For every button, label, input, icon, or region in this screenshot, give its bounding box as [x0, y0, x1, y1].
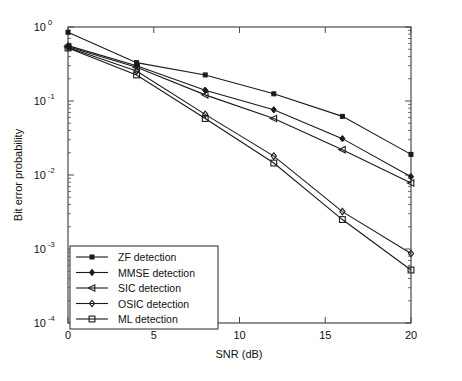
legend-label: OSIC detection [118, 298, 189, 310]
legend-label: SIC detection [118, 282, 181, 294]
legend-label: ZF detection [118, 251, 177, 263]
data-point-marker [409, 152, 413, 156]
data-point-marker [272, 92, 276, 96]
svg-text:0: 0 [48, 18, 52, 27]
y-tick-label: 10-2 [34, 166, 55, 181]
series-line [68, 32, 411, 154]
svg-text:-2: -2 [48, 166, 55, 175]
bit-error-rate-chart: 0510152010010-110-210-310-4 SNR (dB) Bit… [0, 0, 462, 381]
series-line [68, 48, 411, 270]
x-tick-label: 10 [233, 329, 245, 341]
data-point-marker [203, 73, 207, 77]
chart-legend: ZF detectionMMSE detectionSIC detectionO… [70, 246, 218, 329]
y-tick-label: 10-1 [34, 92, 55, 107]
figure-container: 0510152010010-110-210-310-4 SNR (dB) Bit… [0, 0, 462, 381]
data-point-marker [66, 30, 70, 34]
svg-text:-4: -4 [48, 314, 55, 323]
series-zf-detection [66, 30, 413, 156]
svg-text:-1: -1 [48, 92, 55, 101]
x-tick-label: 20 [405, 329, 417, 341]
data-point-marker [340, 135, 345, 141]
x-axis-title: SNR (dB) [215, 348, 262, 360]
y-tick-label: 10-4 [34, 314, 55, 329]
y-tick-label: 100 [34, 18, 52, 33]
data-point-marker [340, 114, 344, 118]
legend-label: ML detection [118, 313, 178, 325]
legend-label: MMSE detection [118, 267, 195, 279]
series-line [68, 47, 411, 183]
svg-text:10: 10 [34, 317, 46, 329]
svg-text:10: 10 [34, 169, 46, 181]
svg-text:10: 10 [34, 95, 46, 107]
data-point-marker [408, 173, 413, 179]
x-tick-label: 15 [319, 329, 331, 341]
svg-text:10: 10 [34, 243, 46, 255]
x-tick-label: 0 [65, 329, 71, 341]
svg-text:10: 10 [34, 21, 46, 33]
y-tick-label: 10-3 [34, 240, 55, 255]
data-point-marker [90, 255, 94, 259]
series-osic-detection [65, 44, 413, 256]
series-line [68, 47, 411, 253]
x-tick-label: 5 [151, 329, 157, 341]
svg-text:-3: -3 [48, 240, 55, 249]
data-series-layer [64, 30, 414, 273]
y-axis-title: Bit error probability [12, 128, 24, 221]
data-point-marker [271, 107, 276, 113]
series-sic-detection [64, 44, 413, 187]
